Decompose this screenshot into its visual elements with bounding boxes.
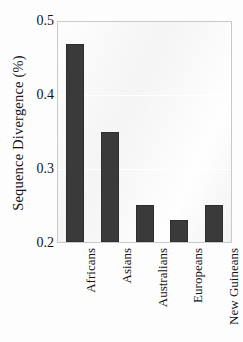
x-tick-label-new-guineans: New Guineans	[226, 248, 242, 325]
plot-area	[57, 21, 232, 243]
y-axis-title: Sequence Divergence (%)	[7, 18, 29, 248]
bar-asians	[101, 132, 119, 242]
bar-chart-figure: Sequence Divergence (%) 0.5 0.4 0.3 0.2 …	[0, 0, 243, 342]
y-tick-label-1: 0.4	[8, 88, 54, 102]
bar-new-guineans	[205, 205, 223, 242]
x-tick-label-europeans: Europeans	[190, 248, 206, 303]
x-tick-label-asians: Asians	[119, 248, 135, 283]
x-tick-label-africans: Africans	[83, 248, 99, 293]
x-tick-label-australians: Australians	[155, 248, 171, 307]
y-tick-label-0: 0.5	[8, 14, 54, 28]
bar-australians	[136, 205, 154, 242]
y-tick-label-3: 0.2	[8, 236, 54, 250]
bar-africans	[66, 44, 84, 242]
bar-europeans	[170, 220, 188, 242]
y-tick-label-2: 0.3	[8, 162, 54, 176]
